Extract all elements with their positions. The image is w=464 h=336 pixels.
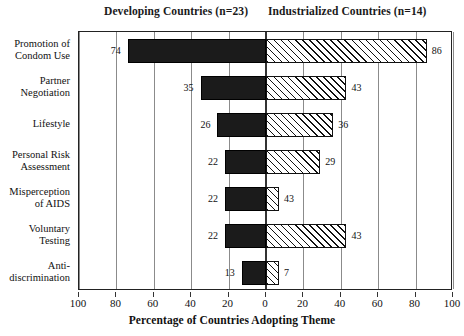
tick-label: 80 <box>409 297 420 309</box>
category-label: Promotion of Condom Use <box>0 38 74 61</box>
category-label: Voluntary Testing <box>0 223 74 246</box>
tick-label: 40 <box>185 297 196 309</box>
bar-value-industrialized: 43 <box>284 194 294 204</box>
tick-label: 40 <box>334 297 345 309</box>
axis-title: Percentage of Countries Adopting Theme <box>0 314 464 326</box>
tick-label: 100 <box>444 297 461 309</box>
legend-label-developing-countries: Developing Countries (n=23) <box>104 5 248 17</box>
plot-area: 748635432636222922432243137 <box>78 31 452 290</box>
tick-label: 20 <box>297 297 308 309</box>
diverging-bar-chart: Developing Countries (n=23) Industrializ… <box>0 0 464 336</box>
bar-value-developing: 22 <box>208 157 218 167</box>
bar-industrialized <box>266 150 320 174</box>
bar-industrialized <box>266 224 346 248</box>
bar-value-industrialized: 86 <box>432 46 442 56</box>
tick-label: 100 <box>70 297 87 309</box>
category-axis-labels: Promotion of Condom UsePartner Negotiati… <box>0 31 74 290</box>
category-label: Anti- discrimination <box>0 260 74 283</box>
bar-industrialized <box>266 76 346 100</box>
bar-value-industrialized: 7 <box>284 268 289 278</box>
bar-value-industrialized: 36 <box>338 120 348 130</box>
gridline <box>453 32 454 289</box>
bar-row: 7486 <box>79 32 451 69</box>
tick-label: 20 <box>222 297 233 309</box>
bar-developing <box>225 187 266 211</box>
bar-row: 137 <box>79 254 451 291</box>
bar-industrialized <box>266 113 333 137</box>
bar-value-developing: 13 <box>225 268 235 278</box>
value-axis-ticks: 10080604020020406080100 <box>0 292 464 310</box>
legend-label-industrialized-countries: Industrialized Countries (n=14) <box>268 5 427 17</box>
bar-value-developing: 26 <box>200 120 210 130</box>
bar-value-industrialized: 29 <box>325 157 335 167</box>
tick-label: 0 <box>262 297 268 309</box>
category-label: Personal Risk Assessment <box>0 149 74 172</box>
bar-row: 2243 <box>79 180 451 217</box>
tick-label: 60 <box>147 297 158 309</box>
bar-value-developing: 22 <box>208 194 218 204</box>
tick-label: 60 <box>372 297 383 309</box>
tick-label: 80 <box>110 297 121 309</box>
bar-value-developing: 35 <box>184 83 194 93</box>
category-label: Partner Negotiation <box>0 75 74 98</box>
bar-developing <box>225 224 266 248</box>
bar-value-industrialized: 43 <box>351 83 361 93</box>
bar-row: 3543 <box>79 69 451 106</box>
bar-value-industrialized: 43 <box>351 231 361 241</box>
bar-developing <box>128 39 266 63</box>
bar-row: 2636 <box>79 106 451 143</box>
bar-row: 2229 <box>79 143 451 180</box>
category-label: Lifestyle <box>0 118 74 130</box>
bar-value-developing: 74 <box>111 46 121 56</box>
bar-developing <box>225 150 266 174</box>
bar-developing <box>242 261 266 285</box>
bar-value-developing: 22 <box>208 231 218 241</box>
bar-industrialized <box>266 261 279 285</box>
bar-row: 2243 <box>79 217 451 254</box>
bar-industrialized <box>266 187 279 211</box>
bar-developing <box>201 76 266 100</box>
category-label: Misperception of AIDS <box>0 186 74 209</box>
bar-developing <box>217 113 266 137</box>
bar-industrialized <box>266 39 427 63</box>
